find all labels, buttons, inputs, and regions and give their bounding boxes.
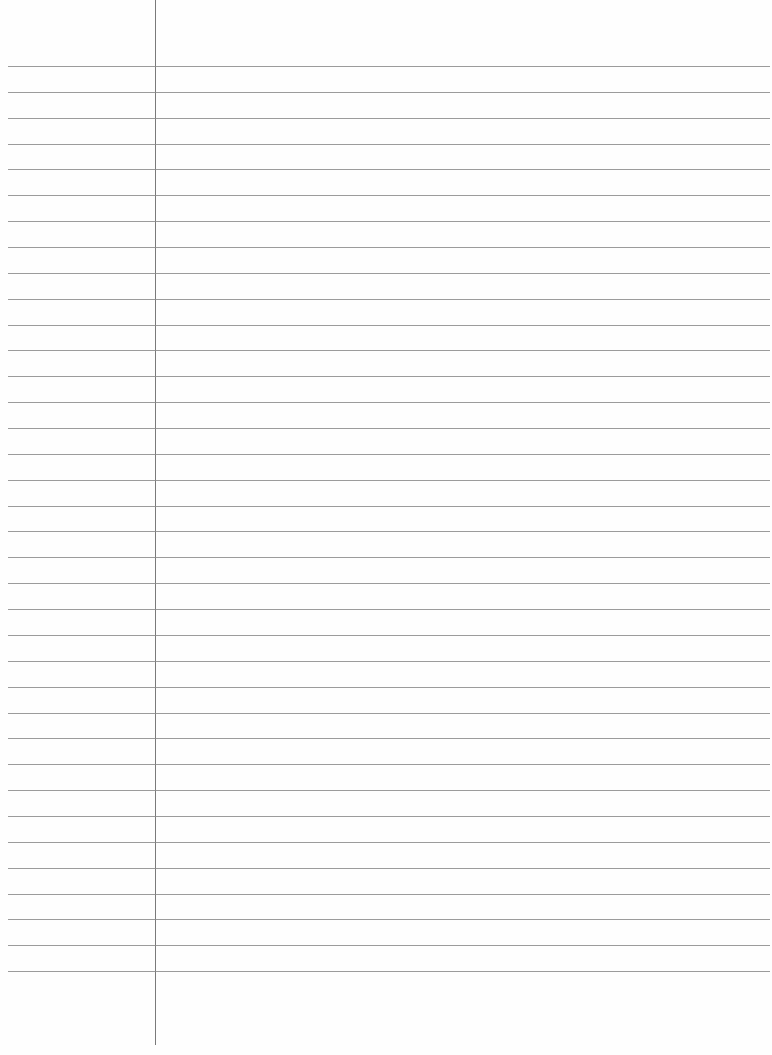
ruled-line xyxy=(8,661,770,662)
ruled-line xyxy=(8,144,770,145)
ruled-line xyxy=(8,894,770,895)
ruled-line xyxy=(8,506,770,507)
ruled-line xyxy=(8,66,770,67)
ruled-line xyxy=(8,945,770,946)
lined-paper xyxy=(0,0,772,1055)
ruled-line xyxy=(8,609,770,610)
ruled-line xyxy=(8,221,770,222)
ruled-line xyxy=(8,195,770,196)
ruled-line xyxy=(8,971,770,972)
ruled-line xyxy=(8,557,770,558)
ruled-line xyxy=(8,764,770,765)
ruled-line xyxy=(8,92,770,93)
ruled-line xyxy=(8,738,770,739)
ruled-line xyxy=(8,635,770,636)
ruled-line xyxy=(8,919,770,920)
ruled-line xyxy=(8,868,770,869)
ruled-line xyxy=(8,428,770,429)
ruled-line xyxy=(8,247,770,248)
ruled-line xyxy=(8,169,770,170)
ruled-line xyxy=(8,713,770,714)
margin-line xyxy=(155,0,156,1045)
ruled-line xyxy=(8,376,770,377)
ruled-line xyxy=(8,480,770,481)
ruled-line xyxy=(8,790,770,791)
ruled-line xyxy=(8,531,770,532)
ruled-line xyxy=(8,842,770,843)
ruled-line xyxy=(8,454,770,455)
ruled-line xyxy=(8,325,770,326)
ruled-line xyxy=(8,350,770,351)
ruled-line xyxy=(8,583,770,584)
ruled-line xyxy=(8,118,770,119)
ruled-line xyxy=(8,402,770,403)
ruled-line xyxy=(8,299,770,300)
ruled-line xyxy=(8,687,770,688)
ruled-line xyxy=(8,816,770,817)
ruled-line xyxy=(8,273,770,274)
